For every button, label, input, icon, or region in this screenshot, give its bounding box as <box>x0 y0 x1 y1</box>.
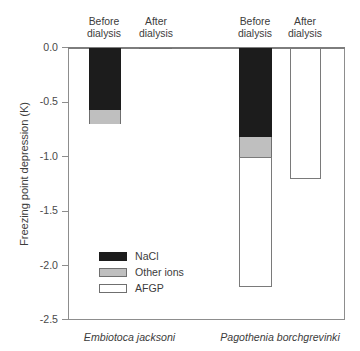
legend-item-other-ions: Other ions <box>99 265 219 279</box>
chart-figure: Freezing point depression (K) 0.0 -0.5 -… <box>0 0 360 351</box>
bar-segment-nacl <box>239 48 272 137</box>
legend-swatch-other-ions <box>99 268 127 277</box>
bar-pagothenia-borchgrevinki-before-dialysis <box>239 48 272 287</box>
bar-embiotoca-jacksoni-before-dialysis <box>89 48 121 124</box>
y-tick-label-1: -0.5 <box>24 95 58 107</box>
y-tick-label-5: -2.5 <box>24 313 58 325</box>
legend-label-afgp: AFGP <box>135 282 164 294</box>
bar-pagothenia-borchgrevinki-after-dialysis <box>290 48 321 179</box>
group-label-pagothenia-borchgrevinki: Pagothenia borchgrevinki <box>205 331 355 343</box>
column-header-line2: dialysis <box>123 28 189 40</box>
bar-segment-other-ions <box>239 137 272 157</box>
bar-embiotoca-jacksoni-after-dialysis <box>139 48 172 49</box>
bar-segment-afgp <box>290 48 321 179</box>
y-tick-label-4: -2.0 <box>24 259 58 271</box>
bar-segment-nacl <box>139 48 172 49</box>
column-header-after-dialysis-1: After dialysis <box>123 16 189 40</box>
column-header-line2: dialysis <box>272 28 338 40</box>
y-tick-label-0: 0.0 <box>24 41 58 53</box>
column-header-line1: After <box>123 16 189 28</box>
legend-swatch-nacl <box>99 252 127 261</box>
bar-segment-nacl <box>89 48 121 110</box>
legend-label-nacl: NaCl <box>135 250 159 262</box>
legend-item-afgp: AFGP <box>99 281 219 295</box>
legend-swatch-afgp <box>99 284 127 293</box>
column-header-line1: After <box>272 16 338 28</box>
y-tick-label-2: -1.0 <box>24 150 58 162</box>
group-label-embiotoca-jacksoni: Embiotoca jacksoni <box>62 331 197 343</box>
chart-legend: NaCl Other ions AFGP <box>99 249 219 297</box>
legend-item-nacl: NaCl <box>99 249 219 263</box>
y-tick-label-3: -1.5 <box>24 204 58 216</box>
column-header-after-dialysis-2: After dialysis <box>272 16 338 40</box>
bar-segment-afgp <box>239 157 272 288</box>
bar-segment-other-ions <box>89 110 121 124</box>
legend-label-other-ions: Other ions <box>135 266 184 278</box>
